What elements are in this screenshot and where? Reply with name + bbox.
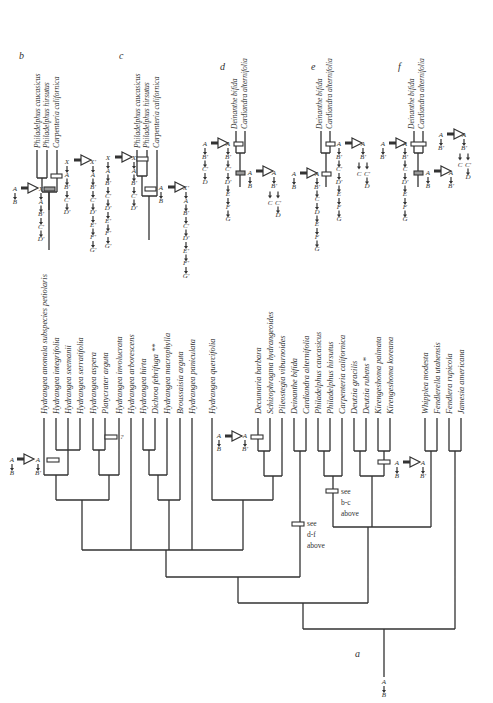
- svg-text:B': B': [314, 183, 320, 191]
- state-chain: C'D: [464, 161, 471, 182]
- svg-text:C': C': [105, 192, 112, 200]
- svg-text:A: A: [336, 140, 342, 148]
- svg-text:B': B': [380, 153, 386, 161]
- taxon-label: Hydrangea anomala subspecies petiolaris: [40, 274, 49, 415]
- svg-text:B': B': [35, 469, 41, 477]
- svg-text:C': C': [225, 165, 232, 173]
- svg-text:A: A: [158, 184, 164, 192]
- taxon-label: Philadelphus hirsutus: [42, 82, 51, 149]
- svg-text:A: A: [183, 197, 189, 205]
- state-chain: C: [458, 161, 463, 169]
- taxon-label: Deinanthe bifida: [407, 78, 416, 130]
- state-chain: AB'CD'EFG: [401, 140, 409, 223]
- taxon-label: Whipplea modesta: [421, 352, 430, 414]
- taxon-label: Kirengeshoma koreana: [386, 337, 395, 415]
- state-chain: XAB'C'D': [37, 185, 45, 243]
- svg-text:A: A: [35, 456, 41, 464]
- taxon-label: Deinanthe bifida: [230, 78, 239, 130]
- svg-text:C: C: [357, 170, 362, 178]
- state-chain: C'D: [363, 170, 370, 191]
- svg-text:A: A: [394, 459, 400, 467]
- svg-text:A: A: [420, 459, 426, 467]
- svg-text:A: A: [381, 678, 387, 686]
- taxon-label: Hydrangea quercifolia: [208, 338, 217, 415]
- svg-text:B': B': [64, 183, 70, 191]
- svg-text:D: D: [363, 182, 369, 190]
- taxon-label: Platycrater arguta: [101, 352, 110, 415]
- svg-text:C': C': [336, 165, 343, 173]
- state-branch: [268, 192, 272, 199]
- state-branch: [357, 163, 361, 170]
- svg-text:A: A: [202, 140, 208, 148]
- svg-text:B': B': [336, 153, 342, 161]
- uncertain-mark: ?: [120, 433, 124, 441]
- see-bc-note: b-c: [341, 498, 351, 507]
- svg-text:D': D': [130, 204, 138, 212]
- svg-text:X: X: [105, 154, 111, 162]
- panel-label-d: d: [220, 61, 226, 72]
- transformation-arrow-icon: [225, 431, 242, 441]
- svg-text:E: E: [402, 190, 408, 198]
- svg-text:B': B': [461, 144, 467, 152]
- phylogeny-figure: b c d e f a Philadelphus caucasicus Phil…: [0, 0, 493, 703]
- svg-text:A: A: [438, 131, 444, 139]
- see-bc-note: see: [341, 487, 351, 496]
- transformation-arrow-icon: [74, 155, 91, 165]
- see-bc-note: above: [341, 509, 360, 518]
- svg-text:E': E': [89, 221, 96, 229]
- svg-text:X: X: [131, 154, 137, 162]
- svg-text:D: D: [313, 208, 319, 216]
- transformation-arrow-icon: [345, 138, 362, 148]
- taxon-label: Schizophragma hydrangeoides: [266, 311, 275, 414]
- state-chain: AB': [448, 169, 455, 190]
- svg-text:D': D': [37, 235, 45, 243]
- svg-text:G': G': [90, 246, 97, 254]
- taxon-label: Hydrangea aspera: [89, 352, 98, 415]
- svg-text:B': B': [402, 153, 408, 161]
- svg-text:D': D': [182, 234, 190, 242]
- taxon-label: Dichroa febrifuga **: [151, 343, 160, 415]
- state-chain: X'AB'C'D'E'F'G': [182, 184, 190, 280]
- taxon-label: Hydrangea macrophylla: [163, 333, 172, 415]
- svg-text:A: A: [216, 432, 222, 440]
- svg-text:A: A: [291, 170, 297, 178]
- svg-text:E: E: [225, 190, 231, 198]
- svg-text:B': B': [38, 210, 44, 218]
- svg-text:B': B': [420, 472, 426, 480]
- svg-text:D': D': [89, 208, 97, 216]
- svg-text:G: G: [314, 245, 319, 253]
- see-df-note: d-f: [307, 530, 316, 539]
- taxon-label: Cardiandra alternifolia: [325, 58, 334, 129]
- state-chain: AB'C'D'EFG: [224, 140, 232, 223]
- taxon-label: Hydrangea serratifolia: [76, 337, 85, 415]
- inset-f: Deinanthe bifida Cardiandra alternifolia: [407, 58, 426, 187]
- state-chain: AB: [158, 184, 164, 205]
- svg-text:A: A: [360, 140, 366, 148]
- svg-text:A: A: [425, 169, 431, 177]
- state-chain: AB': [420, 459, 427, 480]
- svg-text:B: B: [426, 182, 431, 190]
- svg-text:F': F': [104, 229, 111, 237]
- svg-text:C': C': [64, 196, 71, 204]
- svg-text:B': B': [131, 179, 137, 187]
- taxon-label: Philadelphus caucasicus: [33, 74, 42, 149]
- inset-b-taxa: Philadelphus caucasicus Philadelphus hir…: [33, 74, 61, 149]
- svg-text:A: A: [64, 171, 70, 179]
- taxon-label: Deutzia rubens *: [362, 356, 371, 415]
- svg-text:C': C': [38, 223, 45, 231]
- taxon-label: Deinanthe bifida: [315, 78, 324, 130]
- svg-text:A: A: [9, 456, 15, 464]
- taxon-label: Pileostegia viburnoides: [278, 335, 287, 415]
- state-chain: C: [268, 199, 273, 207]
- svg-text:X': X': [89, 158, 96, 166]
- svg-text:C': C': [275, 199, 282, 207]
- svg-text:C': C': [90, 196, 97, 204]
- svg-text:X': X': [182, 184, 189, 192]
- state-chain: AB': [380, 140, 387, 161]
- state-chain: AB': [242, 432, 249, 453]
- main-tree-taxa: Hydrangea anomala subspecies petiolarisH…: [40, 274, 466, 415]
- svg-text:B': B': [242, 445, 248, 453]
- taxon-label: Hydrangea involucrata: [115, 336, 124, 415]
- see-df-note: above: [307, 541, 326, 550]
- taxon-label: Deinanthe bifida: [290, 358, 299, 415]
